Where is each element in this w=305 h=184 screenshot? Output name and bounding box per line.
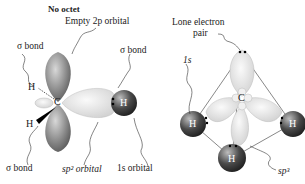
empty-2p-bottom-lobe [45,104,71,152]
label-sigma-bond-top-right: σ bond [120,46,147,56]
atom-h-bottom: H [228,154,235,164]
sp2-lobe [62,88,117,117]
label-sp3: sp³ [278,167,289,177]
atom-h-right: H [120,98,127,108]
atom-h-top-left: H [28,82,35,92]
label-sp2-orbital: sp² orbital [62,165,102,175]
diagram-title: No octet [48,5,80,14]
label-1s: 1s [183,56,191,66]
orbital-diagram-canvas [0,0,305,184]
atom-h-right-sp3: H [289,119,296,129]
label-sigma-bond-top-left: σ bond [17,42,44,52]
atom-h-bottom-left: H [26,119,33,129]
empty-2p-top-lobe [45,52,71,102]
label-pair: pair [193,29,208,39]
atom-carbon-right: C [238,93,245,103]
atom-carbon-left: C [54,97,61,107]
label-sigma-bond-bottom: σ bond [6,164,33,174]
atom-h-left: H [189,119,196,129]
label-1s-orbital: 1s orbital [117,164,153,174]
right-molecule [180,34,305,172]
label-lone-electron: Lone electron [172,18,225,28]
small-back-lobe [35,98,53,108]
label-empty-2p-orbital: Empty 2p orbital [65,17,129,27]
